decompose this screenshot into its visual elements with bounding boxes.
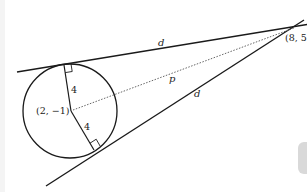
external-point-label: (8, 5)	[285, 32, 307, 43]
tangent-label-upper: d	[158, 37, 164, 48]
upper-right-angle-marker	[65, 64, 72, 73]
side-panel-tab[interactable]	[298, 142, 307, 174]
upper-tangent-line	[17, 25, 307, 73]
distance-label-p: p	[169, 73, 176, 84]
radius-label-lower: 4	[84, 121, 90, 132]
lower-radius	[71, 111, 94, 150]
center-label: (2, −1)	[36, 105, 70, 116]
tangent-label-lower: d	[194, 88, 200, 99]
geometry-diagram: (2, −1) 4 4 d d p (8, 5)	[0, 0, 307, 192]
radius-label-upper: 4	[71, 84, 77, 95]
lower-tangent-line	[46, 20, 304, 186]
